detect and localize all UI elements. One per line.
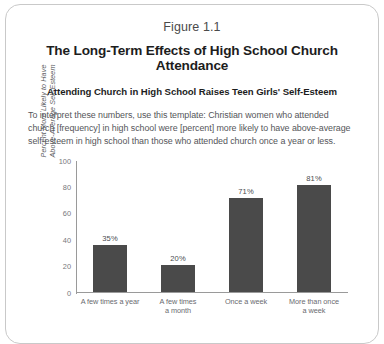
x-axis-category-line: More than once — [280, 297, 348, 306]
x-axis-category-label: More than oncea week — [280, 297, 348, 316]
bar — [229, 198, 263, 292]
y-axis-title: Percent More Likely to Have Above-Averag… — [40, 51, 57, 171]
figure-number: Figure 1.1 — [6, 20, 378, 34]
y-axis-tick-label: 20 — [31, 262, 71, 271]
bar-chart: Percent More Likely to Have Above-Averag… — [6, 161, 378, 321]
bar — [93, 245, 127, 291]
y-axis-tick-label: 60 — [31, 209, 71, 218]
y-axis-tick-label: 100 — [31, 156, 71, 165]
bar-value-label: 81% — [306, 174, 322, 183]
y-axis-title-line-2: Above-Average Self-Esteem — [49, 51, 58, 171]
y-axis-title-line-1: Percent More Likely to Have — [39, 64, 48, 157]
bar-group: 35% — [93, 234, 127, 291]
x-axis-category-line: A few times a year — [76, 297, 144, 306]
y-axis-tick-label: 80 — [31, 183, 71, 192]
figure-body-text: To interpret these numbers, use this tem… — [28, 109, 356, 149]
y-axis-line — [76, 161, 77, 294]
figure-title: The Long-Term Effects of High School Chu… — [6, 43, 378, 73]
bar — [161, 265, 195, 291]
bar-value-label: 71% — [238, 187, 254, 196]
x-axis-category-label: A few times a year — [76, 297, 144, 306]
figure-card: Figure 1.1 The Long-Term Effects of High… — [5, 4, 379, 344]
x-axis-category-line: A few times — [144, 297, 212, 306]
bar-group: 71% — [229, 187, 263, 292]
bar-group: 81% — [297, 174, 331, 292]
x-axis-category-label: Once a week — [212, 297, 280, 306]
bar-value-label: 20% — [170, 254, 186, 263]
y-axis-tick-label: 40 — [31, 235, 71, 244]
x-axis-category-label: A few timesa month — [144, 297, 212, 316]
bar-group: 20% — [161, 254, 195, 291]
x-axis-line — [76, 292, 348, 293]
x-axis-category-line: Once a week — [212, 297, 280, 306]
y-axis-tick-label: 0 — [31, 288, 71, 297]
x-axis-category-line: a week — [280, 306, 348, 315]
x-axis-category-line: a month — [144, 306, 212, 315]
figure-subtitle: Attending Church in High School Raises T… — [6, 86, 378, 97]
bar-value-label: 35% — [102, 234, 118, 243]
bar — [297, 185, 331, 292]
plot-area: 10080604020035%20%71%81% — [76, 161, 348, 293]
